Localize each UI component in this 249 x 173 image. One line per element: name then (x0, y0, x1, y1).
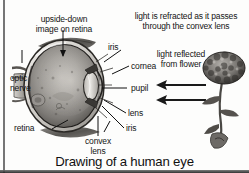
label-iris-top: iris (108, 43, 130, 53)
label-upside-down-image: upside-down image on retina (18, 15, 110, 34)
figure-caption: Drawing of a human eye (0, 155, 249, 169)
label-reflected-light: light reflected from flower (150, 50, 212, 69)
label-iris-bottom: iris (126, 124, 148, 134)
eye-diagram-figure: upside-down image on retina optic nerve … (0, 0, 249, 173)
label-retina: retina (14, 124, 54, 134)
label-pupil: pupil (131, 84, 165, 94)
label-lens: lens (128, 109, 156, 119)
label-refraction-note: light is refracted as it passes through … (124, 12, 248, 31)
label-optic-nerve: optic nerve (10, 74, 52, 93)
